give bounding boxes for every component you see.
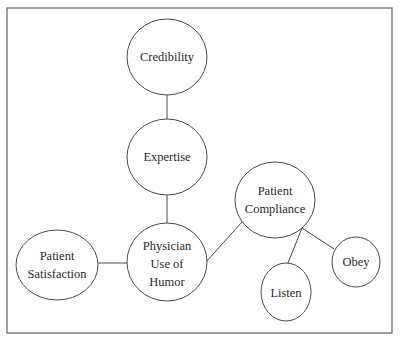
label-line: Physician [143, 237, 192, 255]
label-line: Credibility [140, 48, 194, 66]
label-line: Patient [27, 247, 86, 265]
node-obey-label: Obey [342, 253, 369, 271]
label-line: Listen [270, 284, 301, 302]
diagram-canvas [0, 0, 400, 341]
node-credibility-label: Credibility [140, 48, 194, 66]
node-physician-humor-label: Physician Use of Humor [143, 237, 192, 291]
label-line: Satisfaction [27, 265, 86, 283]
label-line: Patient [245, 182, 305, 200]
label-line: Compliance [245, 200, 305, 218]
label-line: Obey [342, 253, 369, 271]
label-line: Expertise [143, 148, 190, 166]
concept-diagram: Credibility Expertise Physician Use of H… [0, 0, 400, 341]
edge-physician-compliance [206, 222, 242, 262]
node-patient-satisfaction-label: Patient Satisfaction [27, 247, 86, 283]
node-expertise-label: Expertise [143, 148, 190, 166]
label-line: Humor [143, 273, 192, 291]
label-line: Use of [143, 255, 192, 273]
node-listen-label: Listen [270, 284, 301, 302]
edge-compliance-obey [302, 228, 334, 249]
node-patient-compliance-label: Patient Compliance [245, 182, 305, 218]
